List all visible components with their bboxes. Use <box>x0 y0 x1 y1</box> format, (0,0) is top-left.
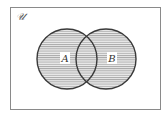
set-a-label: A <box>60 53 68 64</box>
venn-diagram: 𝒰 A B <box>0 0 161 117</box>
set-b-label: B <box>107 53 115 64</box>
